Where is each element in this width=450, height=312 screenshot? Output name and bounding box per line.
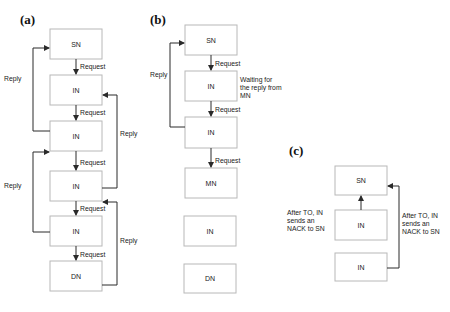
nack-arrow: [387, 186, 399, 268]
node-sn-label: SN: [71, 41, 81, 48]
node-in-1-label: IN: [73, 87, 80, 94]
svg-text:NACK to SN: NACK to SN: [287, 225, 325, 232]
node-in-1-label: IN: [358, 222, 365, 229]
nack-note-left: After TO, IN sends an NACK to SN: [287, 209, 325, 232]
svg-text:After TO, IN: After TO, IN: [402, 212, 438, 219]
request-label: Request: [80, 205, 105, 213]
node-in-1-label: IN: [208, 83, 215, 90]
request-label: Request: [215, 106, 240, 114]
svg-text:Waiting for: Waiting for: [240, 76, 273, 84]
panel-a-label: (a): [20, 12, 35, 27]
reply-label: Reply: [4, 75, 22, 83]
reply-arrow: [33, 48, 50, 131]
panel-b-label: (b): [150, 12, 166, 27]
nack-note-right: After TO, IN sends an NACK to SN: [402, 212, 440, 235]
node-dn-label: DN: [205, 275, 215, 282]
request-label: Request: [80, 251, 105, 259]
request-label: Request: [80, 109, 105, 117]
reply-arrow: [170, 43, 185, 127]
node-in-2-label: IN: [208, 129, 215, 136]
reply-arrow: [102, 202, 117, 285]
node-in-2-label: IN: [358, 264, 365, 271]
request-label: Request: [80, 159, 105, 167]
panel-b: (b) SN IN IN MN IN DN Request Request Re…: [150, 12, 282, 293]
svg-text:sends an: sends an: [402, 220, 430, 227]
svg-text:sends an: sends an: [287, 217, 315, 224]
node-in-3-label: IN: [207, 228, 214, 235]
node-dn-label: DN: [71, 273, 81, 280]
svg-text:After TO, IN: After TO, IN: [287, 209, 323, 216]
reply-label: Reply: [150, 71, 168, 79]
node-sn-label: SN: [356, 177, 366, 184]
diagram-canvas: (a) SN IN IN IN IN DN Request Request Re…: [0, 0, 450, 312]
svg-text:the reply from: the reply from: [240, 84, 282, 92]
reply-label: Reply: [120, 130, 138, 138]
svg-text:NACK to SN: NACK to SN: [402, 228, 440, 235]
reply-label: Reply: [4, 182, 22, 190]
node-mn-label: MN: [206, 180, 217, 187]
node-in-3-label: IN: [73, 183, 80, 190]
waiting-note: Waiting for the reply from MN: [240, 76, 282, 99]
node-sn-label: SN: [206, 37, 216, 44]
panel-c-label: (c): [289, 143, 303, 158]
panel-c: (c) SN IN IN After TO, IN sends an NACK …: [287, 143, 440, 281]
request-label: Request: [80, 63, 105, 71]
panel-a: (a) SN IN IN IN IN DN Request Request Re…: [4, 12, 138, 291]
svg-text:MN: MN: [240, 92, 251, 99]
reply-label: Reply: [120, 237, 138, 245]
reply-arrow: [33, 152, 50, 232]
node-in-4-label: IN: [73, 228, 80, 235]
request-label: Request: [215, 60, 240, 68]
request-label: Request: [215, 157, 240, 165]
node-in-2-label: IN: [73, 133, 80, 140]
